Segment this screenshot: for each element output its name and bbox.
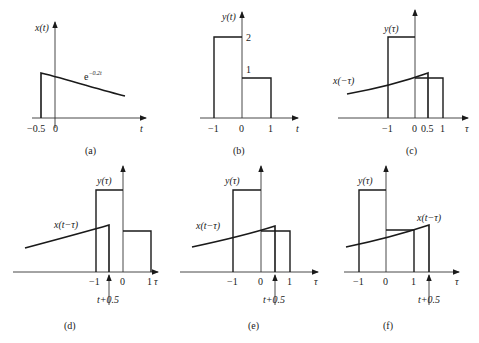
curve-label: x(t−τ) (53, 219, 79, 231)
tick-neg-0.5: −0.5 (27, 123, 45, 134)
caption-f: (f) (383, 320, 393, 332)
tick-0: 0 (258, 276, 263, 287)
caption-a: (a) (85, 145, 96, 157)
pulse-height-1 (242, 78, 271, 118)
curve-label: x(t−τ) (195, 220, 221, 232)
tick-1: 1 (268, 123, 273, 134)
pulse-height-2 (214, 37, 242, 118)
t-marker-label: t+0.5 (97, 294, 119, 305)
curve-label: x(t−τ) (416, 212, 442, 224)
panel-b: y(t) 2 1 −1 0 1 t (b) (200, 11, 299, 157)
convolution-diagram: x(t) e−0.2t −0.5 0 t (a) y(t) 2 1 −1 0 1… (0, 0, 479, 343)
tick-neg-1: −1 (89, 276, 100, 287)
tick-1: 1 (440, 123, 445, 134)
tick-neg-1: −1 (382, 123, 393, 134)
panel-f: y(τ) x(t−τ) −1 0 1 τ t+0.5 (f) (344, 166, 459, 332)
x-axis-label: τ (465, 123, 469, 134)
tick-neg-1: −1 (227, 276, 238, 287)
y-signal-label: y(τ) (357, 175, 373, 187)
level-2-label: 2 (246, 32, 251, 43)
panel-c: y(τ) x(−τ) −1 0 0.5 1 τ (c) (332, 10, 469, 157)
y-pulse-height-2 (359, 190, 386, 272)
y-signal-label: y(τ) (383, 23, 399, 35)
caption-e: (e) (248, 320, 259, 332)
curve-label: e−0.2t (84, 70, 102, 82)
y-pulse-height-1 (123, 231, 151, 272)
x-axis-label: τ (314, 276, 318, 287)
tick-neg-1: −1 (353, 276, 364, 287)
y-signal-label: y(τ) (96, 175, 112, 187)
panel-e: y(τ) x(t−τ) −1 0 1 τ t+0.5 (e) (180, 166, 318, 332)
tick-0: 0 (239, 123, 244, 134)
panel-a: x(t) e−0.2t −0.5 0 t (a) (27, 22, 146, 157)
tick-0: 0 (53, 123, 58, 134)
tick-0: 0 (383, 276, 388, 287)
tick-1: 1 (287, 276, 292, 287)
t-marker-label: t+0.5 (263, 294, 285, 305)
tick-0.5: 0.5 (421, 123, 434, 134)
tick-1: 1 (147, 276, 152, 287)
t-marker-label: t+0.5 (418, 294, 440, 305)
x-axis-label: τ (154, 276, 158, 287)
x-axis-label: t (296, 123, 299, 134)
y-signal-label: y(τ) (224, 175, 240, 187)
curve-label: x(−τ) (332, 75, 355, 87)
tick-neg-1: −1 (208, 123, 219, 134)
level-1-label: 1 (246, 64, 251, 75)
y-axis-label: y(t) (221, 11, 237, 23)
tick-0: 0 (412, 123, 417, 134)
caption-d: (d) (64, 320, 76, 332)
y-pulse-height-2 (388, 37, 415, 118)
caption-b: (b) (233, 145, 245, 157)
y-pulse-height-1 (415, 78, 443, 118)
x-signal-curve (41, 73, 125, 118)
x-axis-label: t (140, 123, 143, 134)
y-axis-label: x(t) (34, 22, 50, 34)
caption-c: (c) (406, 145, 417, 157)
panel-d: y(τ) x(t−τ) −1 0 1 τ t+0.5 (d) (13, 166, 158, 332)
x-axis-label: τ (455, 276, 459, 287)
tick-0: 0 (120, 276, 125, 287)
tick-1: 1 (411, 276, 416, 287)
